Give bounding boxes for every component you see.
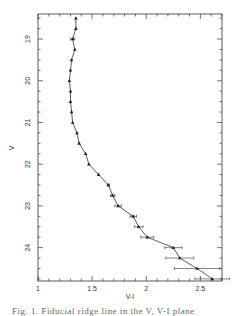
triangle-marker — [73, 47, 77, 50]
x-tick-label: 1 — [36, 285, 40, 292]
triangle-marker — [74, 27, 78, 30]
x-tick-label: 2 — [144, 285, 148, 292]
x-tick-label: 1.5 — [87, 285, 97, 292]
triangle-marker — [75, 131, 79, 134]
x-tick-labels: 11.522.5 — [36, 285, 205, 292]
y-tick-label: 20 — [24, 77, 31, 85]
y-tick-label: 24 — [24, 244, 31, 252]
y-tick-label: 21 — [24, 118, 31, 126]
triangle-marker — [68, 79, 72, 82]
data-markers — [68, 16, 214, 280]
triangle-marker — [71, 37, 75, 40]
x-axis-label: V-I — [126, 293, 135, 300]
plot-frame — [38, 14, 222, 281]
triangle-marker — [116, 204, 120, 207]
triangle-marker — [137, 225, 141, 228]
triangle-marker — [69, 68, 73, 71]
axis-ticks — [38, 14, 222, 281]
ridge-line — [69, 18, 212, 279]
chart: 11.522.5 192021222324 V-I V — [0, 0, 237, 300]
triangle-marker — [74, 16, 78, 19]
triangle-marker — [70, 58, 74, 61]
triangle-marker — [69, 100, 73, 103]
y-axis-label: V — [8, 145, 15, 150]
x-tick-label: 2.5 — [195, 285, 205, 292]
triangle-marker — [70, 110, 74, 113]
y-tick-label: 19 — [24, 35, 31, 43]
triangle-marker — [131, 214, 135, 217]
error-bars — [70, 38, 229, 281]
y-tick-label: 23 — [24, 202, 31, 210]
y-tick-labels: 192021222324 — [24, 35, 31, 251]
triangle-marker — [87, 162, 91, 165]
triangle-marker — [69, 89, 73, 92]
triangle-marker — [77, 141, 81, 144]
figure-caption: Fig. 1. Fiducial ridge line in the V, V-… — [12, 306, 195, 316]
y-tick-label: 22 — [24, 160, 31, 168]
triangle-marker — [71, 120, 75, 123]
triangle-marker — [111, 193, 115, 196]
